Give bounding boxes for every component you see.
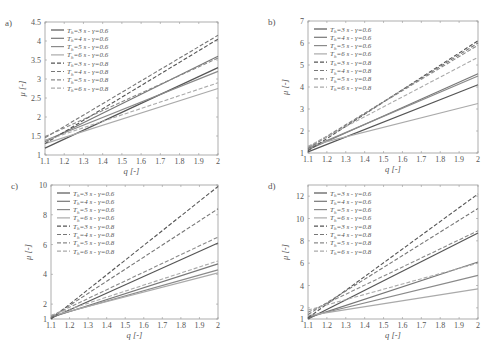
x-tick-label: 1.3 — [341, 155, 351, 164]
legend-entry: Th=6 s - γ=0.6 — [330, 50, 372, 59]
series-line — [308, 289, 478, 316]
y-axis-label: μ [-] — [280, 79, 290, 96]
legend-entry: Th=6 s - γ=0.6 — [67, 51, 109, 60]
x-tick-label: 1.4 — [102, 321, 112, 330]
legend-entry: Th=3 s - γ=0.6 — [330, 190, 372, 199]
legend-entry: Th=3 s - γ=0.6 — [67, 27, 109, 36]
x-tick-label: 1.2 — [65, 321, 75, 330]
y-tick-label: 1 — [37, 151, 41, 160]
chart-panel-b: b)1.11.21.31.41.51.61.71.81.921234567q [… — [250, 0, 501, 182]
x-axis-label: q [-] — [127, 330, 143, 340]
x-tick-label: 1.5 — [379, 321, 389, 330]
y-tick-label: 2.5 — [31, 94, 41, 103]
x-tick-label: 2 — [216, 157, 220, 166]
x-tick-label: 1.9 — [454, 321, 464, 330]
y-tick-label: 8 — [300, 237, 304, 246]
y-tick-label: 3 — [37, 75, 41, 84]
x-tick-label: 2 — [216, 321, 220, 330]
x-tick-label: 1.2 — [322, 321, 332, 330]
legend: Th=3 s - γ=0.6Th=4 s - γ=0.6Th=5 s - γ=0… — [57, 190, 115, 257]
y-axis-label: μ [-] — [280, 244, 290, 261]
panel-label: b) — [268, 17, 276, 27]
legend-entry: Th=5 s - γ=0.8 — [330, 75, 372, 84]
x-tick-label: 1.8 — [435, 155, 445, 164]
y-tick-label: 1 — [300, 315, 304, 324]
x-tick-label: 1.8 — [175, 157, 185, 166]
x-tick-label: 1.3 — [341, 321, 351, 330]
legend-entry: Th=6 s - γ=0.8 — [330, 248, 372, 257]
series-line — [308, 85, 478, 152]
legend-entry: Th=5 s - γ=0.8 — [73, 239, 115, 248]
legend-entry: Th=3 s - γ=0.6 — [73, 190, 115, 199]
series-line — [308, 275, 478, 316]
y-tick-label: 4 — [300, 83, 304, 92]
legend-entry: Th=4 s - γ=0.6 — [330, 34, 372, 43]
legend-entry: Th=5 s - γ=0.6 — [330, 42, 372, 51]
x-tick-label: 1.7 — [416, 155, 426, 164]
legend-entry: Th=5 s - γ=0.6 — [67, 43, 109, 52]
legend-entry: Th=4 s - γ=0.6 — [67, 35, 109, 44]
x-tick-label: 1.7 — [416, 321, 426, 330]
y-tick-label: 5 — [300, 61, 304, 70]
y-tick-label: 10 — [296, 215, 304, 224]
legend-entry: Th=5 s - γ=0.6 — [73, 206, 115, 215]
y-tick-label: 3.5 — [31, 56, 41, 65]
legend-entry: Th=5 s - γ=0.6 — [330, 206, 372, 215]
y-tick-label: 12 — [296, 192, 304, 201]
legend-entry: Th=6 s - γ=0.6 — [73, 214, 115, 223]
x-tick-label: 2 — [476, 155, 480, 164]
x-tick-label: 1.5 — [379, 155, 389, 164]
x-tick-label: 1.6 — [136, 157, 146, 166]
legend-entry: Th=4 s - γ=0.8 — [67, 68, 109, 77]
y-tick-label: 2 — [300, 304, 304, 313]
legend: Th=3 s - γ=0.6Th=4 s - γ=0.6Th=5 s - γ=0… — [314, 26, 372, 93]
x-tick-label: 1.3 — [83, 321, 93, 330]
y-tick-label: 6 — [43, 241, 47, 250]
panel-label: a) — [5, 18, 12, 28]
y-tick-label: 2 — [43, 300, 47, 309]
legend-entry: Th=3 s - γ=0.8 — [330, 223, 372, 232]
x-tick-label: 1.7 — [157, 321, 167, 330]
series-line — [308, 262, 478, 318]
legend-entry: Th=4 s - γ=0.8 — [330, 67, 372, 76]
x-tick-label: 2 — [476, 321, 480, 330]
legend-entry: Th=4 s - γ=0.8 — [330, 231, 372, 240]
y-tick-label: 4 — [43, 270, 47, 279]
series-line — [45, 56, 218, 142]
x-tick-label: 1.9 — [194, 157, 204, 166]
x-tick-label: 1.1 — [303, 155, 313, 164]
x-tick-label: 1.5 — [117, 157, 127, 166]
y-tick-label: 4.5 — [31, 18, 41, 27]
y-tick-label: 2 — [37, 113, 41, 122]
x-tick-label: 1.2 — [322, 155, 332, 164]
y-tick-label: 6 — [300, 259, 304, 268]
y-tick-label: 4 — [300, 282, 304, 291]
legend-entry: Th=6 s - γ=0.6 — [330, 214, 372, 223]
legend-entry: Th=4 s - γ=0.8 — [73, 231, 115, 240]
x-tick-label: 1.5 — [120, 321, 130, 330]
y-tick-label: 1 — [300, 149, 304, 158]
x-tick-label: 1.6 — [139, 321, 149, 330]
y-tick-label: 8 — [43, 211, 47, 220]
legend-entry: Th=6 s - γ=0.8 — [73, 248, 115, 257]
series-line — [51, 273, 218, 316]
x-tick-label: 1.6 — [397, 321, 407, 330]
x-tick-label: 1.4 — [360, 155, 370, 164]
x-tick-label: 1.9 — [194, 321, 204, 330]
panel-label: c) — [11, 181, 18, 191]
x-tick-label: 1.6 — [397, 155, 407, 164]
legend-entry: Th=3 s - γ=0.8 — [67, 60, 109, 69]
x-axis-label: q [-] — [385, 164, 401, 174]
y-axis-label: μ [-] — [17, 81, 27, 98]
x-tick-label: 1.4 — [360, 321, 370, 330]
y-tick-label: 4 — [37, 37, 41, 46]
x-tick-label: 1.3 — [78, 157, 88, 166]
legend-entry: Th=5 s - γ=0.8 — [67, 76, 109, 85]
x-tick-label: 1.1 — [303, 321, 313, 330]
y-tick-label: 2 — [300, 127, 304, 136]
legend-entry: Th=3 s - γ=0.8 — [330, 59, 372, 68]
x-tick-label: 1.7 — [155, 157, 165, 166]
y-tick-label: 1 — [43, 315, 47, 324]
y-tick-label: 10 — [39, 181, 47, 190]
legend-entry: Th=3 s - γ=0.8 — [73, 223, 115, 232]
